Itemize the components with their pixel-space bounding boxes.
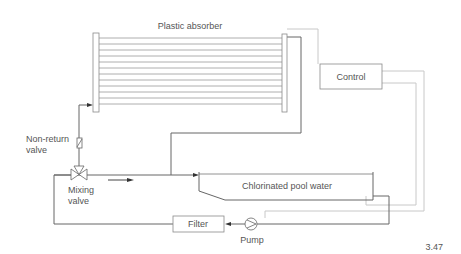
absorber-inlet-header <box>93 33 99 112</box>
absorber-label: Plastic absorber <box>158 21 223 31</box>
absorber-outlet-header <box>282 34 287 112</box>
mixing-label-2: valve <box>68 196 89 206</box>
mixing-valve: Mixing valve <box>68 166 94 206</box>
absorber-return-pipe <box>171 37 301 175</box>
arrow-into-filter-icon <box>225 222 231 226</box>
filter-label: Filter <box>188 219 208 229</box>
control-label: Control <box>336 72 365 82</box>
absorber-sensor-wire <box>287 29 318 64</box>
non-return-label-2: valve <box>26 145 47 155</box>
mixing-label-1: Mixing <box>68 185 94 195</box>
pump-label: Pump <box>240 235 264 245</box>
flow-arrows <box>87 103 231 226</box>
diagram-canvas: Plastic absorber Control Non-return valv… <box>0 0 461 254</box>
absorber-supply-pipe <box>79 105 90 168</box>
non-return-valve: Non-return valve <box>26 134 82 155</box>
flow-direction-arrow-icon <box>127 178 134 182</box>
pool-label: Chlorinated pool water <box>242 181 332 191</box>
arrow-into-pool-icon <box>193 173 199 177</box>
pool: Chlorinated pool water <box>199 172 373 200</box>
absorber-tubes <box>99 38 282 104</box>
filter: Filter <box>173 216 224 232</box>
control-unit: Control <box>320 64 382 89</box>
pump-signal-wire <box>265 71 424 218</box>
arrow-into-absorber-icon <box>87 103 93 107</box>
figure-number: 3.47 <box>425 242 443 252</box>
three-way-valve-icon <box>71 166 87 180</box>
pump: Pump <box>240 218 264 245</box>
non-return-label-1: Non-return <box>26 134 69 144</box>
plastic-absorber: Plastic absorber <box>93 21 287 112</box>
